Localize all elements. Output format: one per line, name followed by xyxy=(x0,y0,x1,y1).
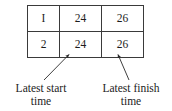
caption-latest-finish-line2: time xyxy=(92,95,170,108)
figure-container: I 24 26 2 24 26 Latest start time Latest… xyxy=(0,0,172,111)
cell-activity-id: 2 xyxy=(28,32,60,58)
leader-line-latest-finish-arrow xyxy=(118,55,129,81)
caption-latest-finish-line1: Latest finish xyxy=(102,82,159,94)
cell-latest-start: 24 xyxy=(60,32,102,58)
activity-table: I 24 26 2 24 26 xyxy=(27,5,144,58)
leader-line-latest-start-arrow xyxy=(44,55,69,81)
table-body: I 24 26 2 24 26 xyxy=(28,6,144,58)
table-row: 2 24 26 xyxy=(28,32,144,58)
caption-latest-start-line2: time xyxy=(2,95,80,108)
cell-latest-start: 24 xyxy=(60,6,102,32)
cell-latest-finish: 26 xyxy=(102,32,144,58)
table-row: I 24 26 xyxy=(28,6,144,32)
cell-activity-id: I xyxy=(28,6,60,32)
caption-latest-start-time: Latest start time xyxy=(2,82,80,108)
caption-latest-finish-time: Latest finish time xyxy=(92,82,170,108)
cell-latest-finish: 26 xyxy=(102,6,144,32)
caption-latest-start-line1: Latest start xyxy=(16,82,67,94)
